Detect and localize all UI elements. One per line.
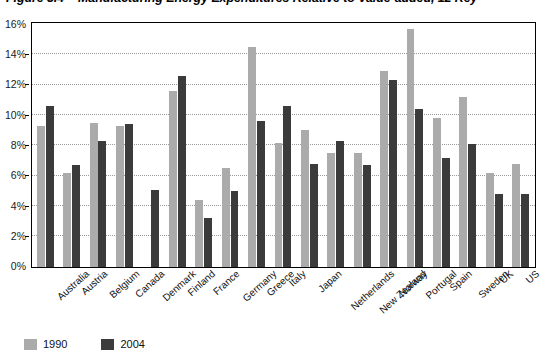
bar-japan-2004: [310, 164, 318, 267]
bar-new-zealand-2004: [363, 165, 371, 267]
chart-plot-area: [31, 22, 536, 268]
bar-group: [270, 23, 296, 267]
y-axis-tick-mark: [25, 54, 29, 55]
bar-greece-1990: [248, 47, 256, 267]
bar-japan-1990: [301, 130, 309, 267]
bar-italy-2004: [283, 106, 291, 267]
x-axis-labels: AustraliaAustriaBelgiumCanadaDenmarkFinl…: [31, 268, 536, 330]
bar-uk-2004: [495, 194, 503, 267]
y-axis-tick-mark: [25, 175, 29, 176]
bar-group: [507, 23, 533, 267]
legend-label: 2004: [120, 339, 144, 350]
legend-swatch-1990: [24, 339, 37, 350]
bar-netherlands-2004: [336, 141, 344, 267]
bar-norway-1990: [380, 71, 388, 267]
bar-belgium-1990: [90, 123, 98, 267]
bar-austria-2004: [72, 165, 80, 267]
bar-canada-2004: [125, 124, 133, 267]
bars-container: [32, 23, 535, 267]
y-axis-tick-label: 10%: [5, 110, 26, 120]
bar-australia-1990: [37, 126, 45, 267]
bar-group: [217, 23, 243, 267]
bar-germany-2004: [231, 191, 239, 267]
bar-norway-2004: [389, 80, 397, 267]
figure-title-text: Manufacturing Energy Expenditures Relati…: [78, 0, 477, 5]
bar-uk-1990: [486, 173, 494, 267]
bar-greece-2004: [257, 121, 265, 267]
y-axis-tick-label: 8%: [11, 140, 26, 150]
bar-finland-2004: [178, 76, 186, 267]
bar-portugal-2004: [415, 109, 423, 267]
y-axis-tick-mark: [25, 84, 29, 85]
bar-new-zealand-1990: [354, 153, 362, 267]
bar-group: [402, 23, 428, 267]
bar-canada-1990: [116, 126, 124, 267]
figure-number: Figure 3.4: [6, 0, 64, 5]
x-axis-label: Japan: [316, 268, 344, 294]
bar-us-2004: [521, 194, 529, 267]
bar-group: [323, 23, 349, 267]
bar-group: [111, 23, 137, 267]
y-axis-tick-label: 4%: [11, 201, 26, 211]
bar-group: [138, 23, 164, 267]
bar-austria-1990: [63, 173, 71, 267]
bar-group: [58, 23, 84, 267]
bar-group: [85, 23, 111, 267]
bar-spain-2004: [442, 158, 450, 267]
y-axis-tick-label: 2%: [11, 231, 26, 241]
chart-legend: 19902004: [24, 337, 179, 351]
bar-spain-1990: [433, 118, 441, 267]
bar-us-1990: [512, 164, 520, 267]
y-axis-tick-mark: [25, 236, 29, 237]
bar-group: [296, 23, 322, 267]
bar-sweden-1990: [459, 97, 467, 267]
y-axis-tick-label: 6%: [11, 170, 26, 180]
bar-france-2004: [204, 218, 212, 267]
bar-group: [375, 23, 401, 267]
bar-france-1990: [195, 200, 203, 267]
legend-item: 2004: [101, 339, 144, 350]
y-axis: 0%2%4%6%8%10%12%14%16%: [0, 22, 29, 268]
y-axis-tick-label: 14%: [5, 49, 26, 59]
bar-germany-1990: [222, 168, 230, 267]
x-axis-label: US: [524, 268, 542, 285]
legend-item: 1990: [24, 339, 67, 350]
bar-portugal-1990: [407, 29, 415, 267]
bar-finland-1990: [169, 91, 177, 267]
bar-sweden-2004: [468, 144, 476, 267]
bar-group: [243, 23, 269, 267]
legend-swatch-2004: [101, 339, 114, 350]
bar-belgium-2004: [98, 141, 106, 267]
bar-group: [349, 23, 375, 267]
bar-denmark-2004: [151, 190, 159, 267]
bar-australia-2004: [46, 106, 54, 267]
bar-netherlands-1990: [327, 153, 335, 267]
y-axis-tick-label: 0%: [11, 261, 26, 271]
bar-group: [32, 23, 58, 267]
y-axis-tick-mark: [25, 115, 29, 116]
bar-group: [164, 23, 190, 267]
bar-group: [455, 23, 481, 267]
legend-label: 1990: [43, 339, 67, 350]
bar-group: [190, 23, 216, 267]
y-axis-tick-mark: [25, 145, 29, 146]
bar-group: [481, 23, 507, 267]
bar-group: [428, 23, 454, 267]
x-axis-label: France: [211, 268, 241, 297]
bar-italy-1990: [275, 143, 283, 267]
y-axis-tick-label: 16%: [5, 19, 26, 29]
y-axis-tick-label: 12%: [5, 79, 26, 89]
figure-title: Figure 3.4Manufacturing Energy Expenditu…: [6, 0, 552, 7]
y-axis-tick-mark: [25, 206, 29, 207]
